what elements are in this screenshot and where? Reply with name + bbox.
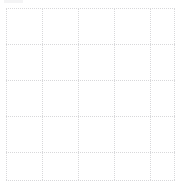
grid-line-horizontal-h4 bbox=[6, 152, 175, 153]
grid-canvas bbox=[0, 0, 180, 187]
grid-line-vertical-v1 bbox=[42, 8, 43, 180]
grid-line-vertical-v5 bbox=[174, 8, 175, 180]
grid-line-vertical-v0 bbox=[6, 8, 7, 180]
grid-line-horizontal-h0 bbox=[6, 8, 175, 9]
grid-line-horizontal-h5 bbox=[6, 180, 175, 181]
grid-line-horizontal-h1 bbox=[6, 44, 175, 45]
grid-line-vertical-v4 bbox=[150, 8, 151, 180]
grid-line-horizontal-h3 bbox=[6, 116, 175, 117]
grid-line-vertical-v2 bbox=[78, 8, 79, 180]
dotted-grid-layer bbox=[0, 0, 180, 187]
grid-line-horizontal-h2 bbox=[6, 80, 175, 81]
grid-line-vertical-v3 bbox=[114, 8, 115, 180]
